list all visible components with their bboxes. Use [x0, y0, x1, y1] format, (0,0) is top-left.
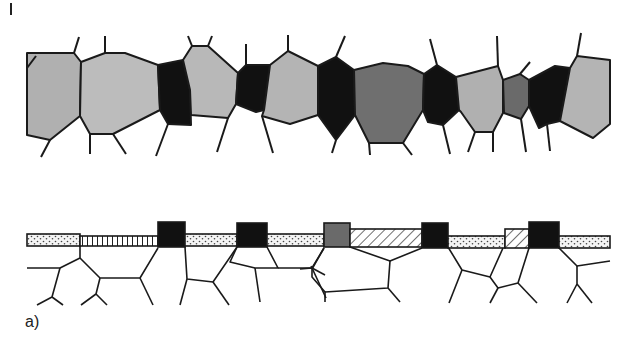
grain-dark-gray: [503, 74, 529, 119]
layer-dotted: [27, 234, 80, 246]
layer-dotted: [185, 234, 237, 246]
corner-mark: [10, 3, 12, 15]
grain-black: [423, 65, 459, 125]
layer-diagonal-hatched: [505, 229, 529, 248]
layer-vertical-striped: [80, 236, 158, 246]
substrate-grain-boundaries: [27, 246, 610, 305]
layer-diagonal-hatched: [350, 229, 422, 247]
grain-diagram: [0, 0, 631, 349]
figure: a): [0, 0, 631, 349]
surface-layer: [27, 222, 610, 248]
grain-light-gray: [183, 46, 238, 118]
block-black: [158, 222, 185, 247]
grain-light-gray: [456, 66, 503, 132]
grain-light-gray: [27, 53, 81, 140]
layer-dotted: [267, 234, 324, 246]
grain-light-gray: [262, 51, 318, 124]
top-grain-band: [27, 33, 610, 157]
layer-dotted: [559, 236, 610, 248]
grain-light-gray: [80, 53, 160, 134]
block-black: [422, 223, 448, 248]
block-black: [237, 223, 267, 247]
layer-dotted: [448, 236, 505, 248]
panel-label: a): [25, 313, 39, 331]
block-dark-gray: [324, 223, 350, 247]
grain-dark-gray: [354, 63, 424, 143]
block-black: [529, 222, 559, 248]
grain-black: [318, 57, 355, 140]
